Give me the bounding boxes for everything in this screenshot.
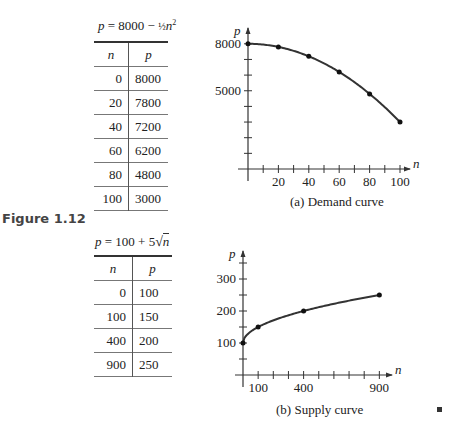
chart-svg: 2040608010050008000pn 100400900100200300…: [0, 0, 449, 445]
x-tick-label: 100: [248, 380, 268, 395]
data-point: [276, 44, 281, 49]
data-point: [246, 41, 251, 46]
y-tick-label: 200: [217, 303, 237, 318]
x-tick-label: 80: [363, 174, 376, 189]
curve: [243, 295, 379, 343]
x-tick-label: 400: [294, 380, 314, 395]
data-point: [398, 120, 403, 125]
demand-chart: 2040608010050008000pn: [215, 23, 420, 189]
y-tick-label: 5000: [215, 83, 241, 98]
x-axis-label: n: [413, 156, 420, 171]
end-mark: [437, 407, 442, 412]
x-axis-arrow-icon: [386, 373, 393, 378]
curve: [248, 44, 400, 122]
demand-caption: (a) Demand curve: [290, 194, 384, 210]
x-tick-label: 900: [370, 380, 390, 395]
x-tick-label: 60: [333, 174, 346, 189]
y-tick-label: 8000: [215, 36, 241, 51]
x-axis-arrow-icon: [404, 167, 411, 172]
data-point: [256, 325, 261, 330]
y-tick-label: 100: [217, 335, 237, 350]
data-point: [306, 54, 311, 59]
data-point: [301, 309, 306, 314]
x-tick-label: 20: [272, 174, 285, 189]
y-tick-label: 300: [217, 271, 237, 286]
x-tick-label: 100: [390, 174, 410, 189]
supply-caption: (b) Supply curve: [276, 402, 363, 418]
data-point: [367, 91, 372, 96]
data-point: [377, 293, 382, 298]
supply-chart: 100400900100200300pn: [217, 246, 402, 395]
y-axis-arrow-icon: [241, 250, 246, 257]
x-tick-label: 40: [302, 174, 315, 189]
data-point: [337, 69, 342, 74]
data-point: [241, 341, 246, 346]
y-axis-arrow-icon: [246, 27, 251, 34]
y-axis-label: p: [233, 23, 241, 38]
y-axis-label: p: [228, 246, 236, 261]
x-axis-label: n: [395, 362, 402, 377]
